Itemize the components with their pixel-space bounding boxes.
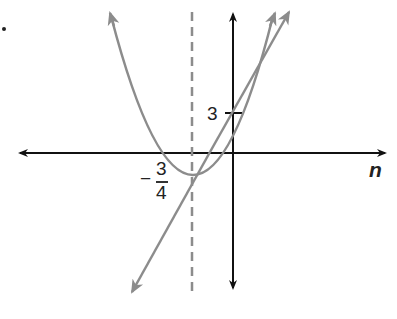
x-axis-label: n <box>369 158 382 182</box>
fraction-sign: − <box>140 168 151 190</box>
fraction-numerator: 3 <box>156 158 167 180</box>
parabola-right-arrow <box>270 13 275 26</box>
x-tick-fraction: − 3 4 <box>140 158 180 208</box>
bullet-dot <box>2 27 6 31</box>
fraction-denominator: 4 <box>156 182 167 204</box>
graph-canvas <box>0 0 397 319</box>
linear-line <box>210 12 289 152</box>
y-tick-label: 3 <box>207 103 218 125</box>
